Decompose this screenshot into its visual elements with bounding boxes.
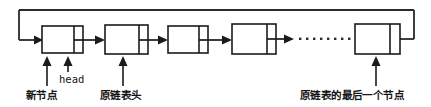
node-last — [355, 24, 400, 54]
label-head: head — [59, 74, 84, 85]
ellipsis-dots — [299, 38, 350, 40]
caret-original-head-head — [119, 56, 128, 66]
caret-last-node-head — [372, 56, 381, 66]
node-last-box — [355, 24, 400, 54]
label-last-node: 原链表的最后一个节点 — [300, 90, 404, 101]
caret-new-node — [43, 56, 52, 86]
caret-original-head — [119, 56, 128, 86]
caret-last-node — [372, 56, 381, 86]
link-3-arrowhead — [222, 36, 232, 45]
label-original-head: 原链表头 — [100, 90, 142, 101]
link-4-arrowhead — [284, 35, 294, 44]
diagram-canvas: 新节点 head 原链表头 原链表的最后一个节点 — [0, 0, 431, 107]
caret-head-head — [64, 56, 73, 66]
link-1-arrowhead — [95, 36, 105, 45]
link-2-arrowhead — [158, 36, 168, 45]
caret-head — [64, 56, 73, 72]
caret-new-node-head — [43, 56, 52, 66]
label-new-node: 新节点 — [26, 90, 57, 101]
